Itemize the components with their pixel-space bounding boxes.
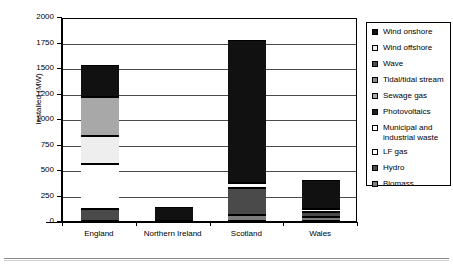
legend-swatch-icon	[372, 181, 378, 187]
bar-wales	[302, 180, 340, 221]
y-axis-label: 1500	[18, 64, 54, 72]
legend-item[interactable]: Photovoltaics	[367, 107, 450, 120]
legend-item[interactable]: Wave	[367, 59, 450, 72]
y-axis-tick	[57, 119, 62, 120]
bar-scotland	[228, 40, 266, 221]
plot-inner	[63, 19, 356, 221]
bar-segment-lf-gas	[302, 209, 340, 212]
gridline	[63, 44, 356, 45]
legend-item[interactable]: Sewage gas	[367, 91, 450, 104]
y-axis-label: 250	[18, 192, 54, 200]
y-axis-tick	[57, 68, 62, 69]
y-axis-label: 1750	[18, 39, 54, 47]
legend-label: Biomass	[383, 179, 414, 189]
legend-swatch-icon	[372, 29, 378, 35]
bar-northern-ireland	[155, 207, 193, 221]
x-axis-tick	[210, 222, 211, 226]
y-axis-tick	[57, 94, 62, 95]
bar-segment-hydro	[81, 209, 119, 221]
legend-swatch-icon	[372, 77, 378, 83]
legend-label: Tidal/tidal stream	[383, 75, 444, 85]
bar-segment-hydro	[302, 212, 340, 217]
x-axis-tick	[283, 222, 284, 226]
y-axis-label: 1200	[18, 90, 54, 98]
x-axis-label-wales: Wales	[275, 229, 365, 238]
legend-swatch-icon	[372, 149, 378, 155]
y-axis-tick	[57, 170, 62, 171]
bar-segment-wind-offshore	[81, 136, 119, 164]
bar-segment-wind-onshore	[302, 180, 340, 209]
bar-segment-biomass	[228, 215, 266, 221]
legend-swatch-icon	[372, 45, 378, 51]
y-axis-label: 2000	[18, 13, 54, 21]
footer-rule	[4, 258, 449, 259]
bar-segment-sewage-gas	[81, 97, 119, 136]
chart-figure: Installed (MW) 0250500750100012001500175…	[0, 0, 453, 272]
legend-swatch-icon	[372, 61, 378, 67]
y-axis-label: 0	[18, 217, 54, 225]
legend-label: Municipal and industrial waste	[383, 123, 438, 142]
legend-item[interactable]: Tidal/tidal stream	[367, 75, 450, 88]
x-axis-tick	[62, 222, 63, 226]
bar-segment-wind-onshore	[81, 65, 119, 97]
legend-label: Wind offshore	[383, 43, 432, 53]
y-axis-label: 750	[18, 141, 54, 149]
chart-legend: Wind onshoreWind offshoreWaveTidal/tidal…	[366, 22, 451, 186]
y-axis-tick	[57, 17, 62, 18]
legend-swatch-icon	[372, 165, 378, 171]
legend-label: Hydro	[383, 163, 404, 173]
bar-segment-lf-gas	[228, 183, 266, 188]
legend-item[interactable]: Biomass	[367, 179, 450, 192]
bar-segment-wind-onshore	[155, 207, 193, 221]
bar-segment-municipal-and-industrial-waste	[81, 164, 119, 209]
legend-label: Photovoltaics	[383, 107, 431, 117]
x-axis-tick	[136, 222, 137, 226]
legend-item[interactable]: Hydro	[367, 163, 450, 176]
bar-segment-biomass	[302, 217, 340, 221]
y-axis-label: 500	[18, 166, 54, 174]
legend-label: Wind onshore	[383, 27, 432, 37]
gridline	[63, 18, 356, 19]
legend-item[interactable]: Wind offshore	[367, 43, 450, 56]
legend-item[interactable]: Wind onshore	[367, 27, 450, 40]
footer-rule-shadow	[4, 260, 449, 261]
legend-label: LF gas	[383, 147, 407, 157]
y-axis-tick	[57, 196, 62, 197]
plot-area	[62, 18, 357, 222]
bar-england	[81, 65, 119, 221]
bar-segment-hydro	[228, 188, 266, 215]
x-axis-line	[46, 222, 358, 223]
legend-swatch-icon	[372, 125, 378, 131]
y-axis-tick	[57, 43, 62, 44]
y-axis-label: 1000	[18, 115, 54, 123]
legend-label: Wave	[383, 59, 403, 69]
legend-item[interactable]: Municipal and industrial waste	[367, 123, 450, 144]
legend-item[interactable]: LF gas	[367, 147, 450, 160]
legend-swatch-icon	[372, 109, 378, 115]
bar-segment-wind-onshore	[228, 40, 266, 183]
legend-label: Sewage gas	[383, 91, 427, 101]
legend-swatch-icon	[372, 93, 378, 99]
x-axis-tick	[357, 222, 358, 226]
y-axis-tick	[57, 145, 62, 146]
